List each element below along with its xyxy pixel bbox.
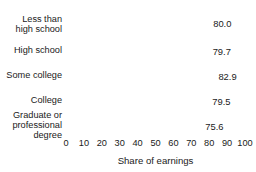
- value-label-less-than-high-school: 80.0: [213, 15, 231, 33]
- value-label-graduate-or-professional-degree: 75.6: [205, 118, 223, 136]
- bar-gridlines: [66, 68, 214, 86]
- bar-less-than-high-school: [66, 15, 209, 33]
- bar-gridlines: [66, 15, 209, 33]
- category-label-graduate-or-professional-degree: Graduate or professional degree: [0, 110, 62, 141]
- bar-college: [66, 93, 208, 111]
- value-label-college: 79.5: [212, 93, 230, 111]
- bar-some-college: [66, 68, 214, 86]
- category-label-less-than-high-school: Less than high school: [0, 14, 62, 34]
- x-axis-title: Share of earnings: [66, 155, 245, 166]
- value-label-some-college: 82.9: [218, 68, 236, 86]
- x-tick-label-100: 100: [235, 138, 255, 149]
- bar-gridlines: [66, 118, 201, 136]
- bar-graduate-or-professional-degree: [66, 118, 201, 136]
- category-label-high-school: High school: [0, 45, 62, 55]
- category-label-college: College: [0, 95, 62, 105]
- category-label-some-college: Some college: [0, 70, 62, 80]
- bar-chart: Less than high school High school Some c…: [0, 0, 256, 172]
- bar-high-school: [66, 43, 209, 61]
- bar-gridlines: [66, 93, 208, 111]
- value-label-high-school: 79.7: [213, 43, 231, 61]
- bar-gridlines: [66, 43, 209, 61]
